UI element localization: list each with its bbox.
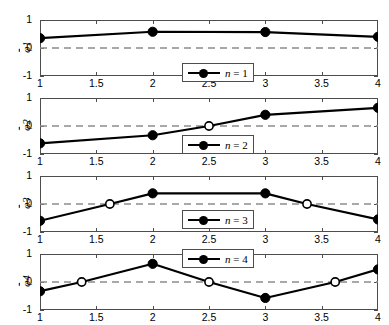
x-tick-label: 4 (363, 78, 389, 89)
x-tick-label: 3.5 (307, 78, 337, 89)
legend-marker-icon (199, 255, 208, 264)
data-point-marker (261, 27, 270, 36)
x-tick-label: 3 (250, 78, 280, 89)
legend-label: n = 3 (225, 214, 248, 226)
x-tick-label: 3 (250, 312, 280, 323)
data-point-marker (373, 32, 378, 41)
legend-marker-icon (199, 216, 208, 225)
x-tick-label: 3 (250, 156, 280, 167)
node-marker-open (331, 278, 339, 286)
x-tick-label: 4 (363, 156, 389, 167)
x-tick-label: 1.5 (81, 78, 111, 89)
x-tick-label: 1 (25, 234, 55, 245)
legend-line-sample (188, 215, 220, 225)
data-point-marker (148, 189, 157, 198)
legend-marker-icon (199, 141, 208, 150)
subplot-phi-2: φ2-10111.522.533.54n = 2 (0, 92, 389, 170)
legend-label: n = 4 (225, 253, 248, 265)
legend-box-1[interactable]: n = 1 (182, 63, 254, 82)
x-tick-label: 3.5 (307, 234, 337, 245)
legend-symbol: n (225, 139, 231, 151)
legend-value: 2 (242, 139, 248, 151)
node-marker-open (303, 200, 311, 208)
x-tick-label: 3.5 (307, 156, 337, 167)
legend-symbol: n (225, 214, 231, 226)
data-point-marker (40, 216, 45, 225)
y-tick-label: 1 (0, 170, 32, 180)
x-tick-label: 4 (363, 234, 389, 245)
legend-symbol: n (225, 253, 231, 265)
subplot-phi-1: φ1-10111.522.533.54n = 1 (0, 14, 389, 92)
legend-box-2[interactable]: n = 2 (182, 135, 254, 154)
legend-value: 3 (242, 214, 248, 226)
subplot-phi-4: φ4-10111.522.533.54n = 4 (0, 248, 389, 325)
data-point-marker (40, 139, 45, 148)
data-point-marker (148, 259, 157, 268)
y-tick-label: 0 (0, 198, 32, 208)
data-point-marker (40, 287, 45, 296)
data-point-marker (148, 131, 157, 140)
legend-line-sample (188, 254, 220, 264)
legend-value: 1 (242, 67, 248, 79)
y-tick-label: 1 (0, 92, 32, 102)
legend-line-sample (188, 68, 220, 78)
legend-line-sample (188, 140, 220, 150)
y-tick-label: 1 (0, 14, 32, 24)
legend-box-4[interactable]: n = 4 (182, 249, 254, 268)
x-tick-label: 4 (363, 312, 389, 323)
y-tick-label: 0 (0, 42, 32, 52)
x-tick-label: 1.5 (81, 312, 111, 323)
legend-symbol: n (225, 67, 231, 79)
data-point-marker (148, 27, 157, 36)
node-marker-open (78, 278, 86, 286)
y-tick-label: 1 (0, 248, 32, 258)
node-marker-open (106, 200, 114, 208)
legend-label: n = 2 (225, 139, 248, 151)
mode-shape-figure: φ1-10111.522.533.54n = 1φ2-10111.522.533… (0, 0, 389, 325)
data-point-marker (373, 265, 378, 274)
data-point-marker (373, 103, 378, 112)
x-tick-label: 2.5 (194, 312, 224, 323)
data-point-marker (261, 189, 270, 198)
y-tick-label: 0 (0, 120, 32, 130)
legend-label: n = 1 (225, 67, 248, 79)
x-tick-label: 1.5 (81, 234, 111, 245)
x-tick-label: 1 (25, 78, 55, 89)
node-marker-open (205, 122, 213, 130)
x-tick-label: 1 (25, 156, 55, 167)
data-point-marker (40, 34, 45, 43)
x-tick-label: 2 (138, 156, 168, 167)
x-tick-label: 2.5 (194, 234, 224, 245)
x-tick-label: 2 (138, 78, 168, 89)
node-marker-open (205, 278, 213, 286)
y-tick-label: 0 (0, 276, 32, 286)
legend-box-3[interactable]: n = 3 (182, 210, 254, 229)
x-tick-label: 2 (138, 234, 168, 245)
x-tick-label: 1 (25, 312, 55, 323)
x-tick-label: 3.5 (307, 312, 337, 323)
x-tick-label: 2 (138, 312, 168, 323)
legend-value: 4 (242, 253, 248, 265)
legend-marker-icon (199, 69, 208, 78)
mode-shape-line (40, 32, 378, 38)
x-tick-label: 1.5 (81, 156, 111, 167)
subplot-phi-3: φ3-10111.522.533.54n = 3 (0, 170, 389, 248)
data-point-marker (373, 215, 378, 224)
data-point-marker (261, 110, 270, 119)
data-point-marker (261, 293, 270, 302)
x-tick-label: 3 (250, 234, 280, 245)
x-tick-label: 2.5 (194, 156, 224, 167)
